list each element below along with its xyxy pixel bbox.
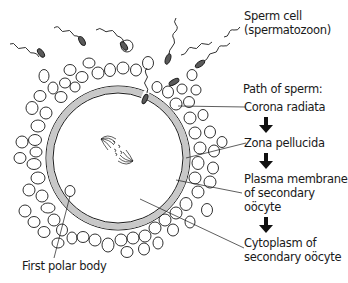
sperm-cells: [10, 18, 240, 87]
label-zona-pellucida: Zona pellucida: [244, 136, 325, 150]
label-corona-radiata: Corona radiata: [244, 100, 325, 114]
label-path-heading: Path of sperm:: [243, 82, 322, 96]
label-sperm-cell: Sperm cell: [244, 9, 302, 23]
label-first-polar-body: First polar body: [22, 259, 106, 273]
label-spermatozoon: (spermatozoon): [244, 23, 331, 37]
arrow-down-icon: [259, 217, 273, 233]
label-plasma-membrane-line3: oöcyte: [244, 200, 281, 214]
arrow-down-icon: [259, 153, 273, 169]
arrow-down-icon: [259, 117, 273, 133]
zona-pellucida: [46, 86, 190, 230]
label-plasma-membrane-line2: of secondary: [244, 186, 315, 200]
entering-sperm: [141, 68, 149, 104]
label-cytoplasm-line2: secondary oöcyte: [244, 250, 341, 264]
label-plasma-membrane: Plasma membrane: [244, 172, 348, 186]
oocyte-fertilization-diagram: Sperm cell (spermatozoon) Path of sperm:…: [0, 0, 348, 283]
label-cytoplasm: Cytoplasm of: [244, 236, 316, 250]
